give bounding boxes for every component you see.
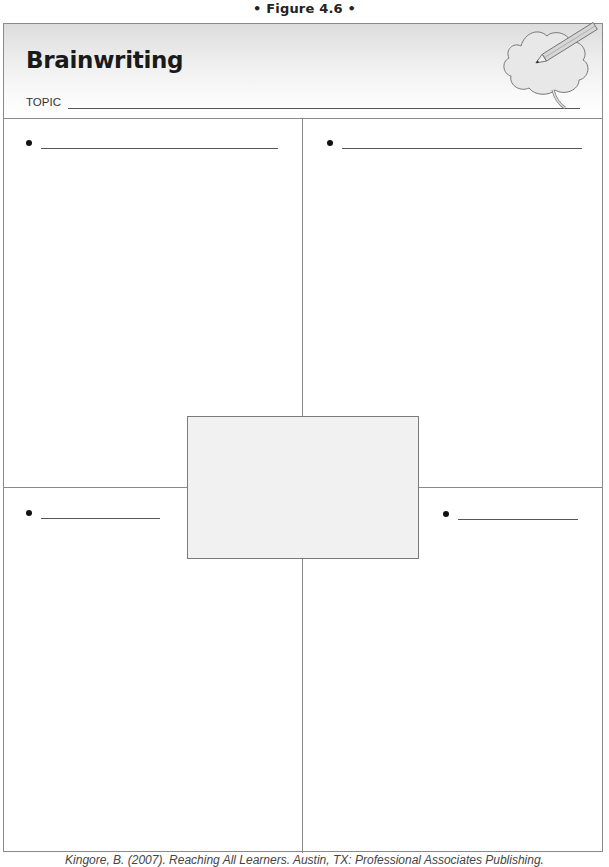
idea-input-line[interactable] <box>458 519 578 520</box>
bullet-icon <box>26 510 32 516</box>
center-topic-box[interactable] <box>187 416 419 559</box>
bullet-icon <box>327 140 333 146</box>
worksheet: Brainwriting TOPIC <box>3 23 603 852</box>
idea-input-line[interactable] <box>41 148 278 149</box>
idea-input-line[interactable] <box>342 148 582 149</box>
idea-input-line[interactable] <box>41 518 160 519</box>
header-band: Brainwriting TOPIC <box>4 24 602 119</box>
bullet-icon <box>443 511 449 517</box>
figure-caption: • Figure 4.6 • <box>0 1 609 16</box>
topic-label: TOPIC <box>26 96 61 108</box>
worksheet-title: Brainwriting <box>26 47 183 73</box>
brain-with-pencil-icon <box>491 16 609 116</box>
bullet-icon <box>26 140 32 146</box>
citation-footer: Kingore, B. (2007). Reaching All Learner… <box>0 853 609 867</box>
